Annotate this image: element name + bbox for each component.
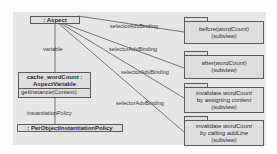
binding-label-2: selectorAdvBinding <box>109 46 157 52</box>
instantiation-policy-label: instantiationPolicy <box>27 110 72 116</box>
subview-invalidate-call[interactable]: invalidate wordCount by calling addLine … <box>184 120 264 146</box>
subview-after[interactable]: after(wordCount) (subview) <box>184 55 264 79</box>
variable-label: variable <box>43 46 63 52</box>
aspect-object[interactable]: : Aspect <box>30 16 80 24</box>
get-instance-operation: getInstance(Context) <box>19 88 90 96</box>
subview-before[interactable]: before(wordCount) (subview) <box>184 21 264 44</box>
binding-label-3: selectorAdvBinding <box>121 69 169 75</box>
policy-object[interactable]: : PerObjectInstantiationPolicy <box>17 124 123 132</box>
subview-invalidate-assign[interactable]: invalidate wordCount by assigning conten… <box>184 87 264 113</box>
aspect-variable-object[interactable]: cache_wordCount : AspectVariable getInst… <box>18 72 91 98</box>
binding-label-1: selectorAdvBinding <box>110 23 158 29</box>
binding-label-4: selectorAdvBinding <box>116 100 164 106</box>
